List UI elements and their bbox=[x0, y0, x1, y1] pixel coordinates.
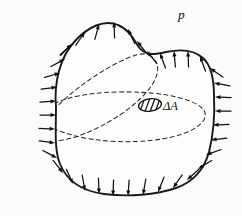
scan-speck bbox=[227, 21, 228, 22]
pressure-arrow bbox=[39, 140, 55, 144]
diagram-canvas: p ΔA bbox=[0, 0, 242, 216]
scan-speck bbox=[196, 206, 197, 207]
scan-speck bbox=[105, 207, 106, 208]
pressure-arrow bbox=[40, 99, 56, 103]
pressure-arrow bbox=[213, 123, 229, 127]
pressure-arrow bbox=[39, 127, 55, 131]
pressure-arrow bbox=[40, 113, 56, 117]
pressure-arrow bbox=[215, 95, 231, 99]
pressure-label: p bbox=[177, 7, 185, 22]
area-element-label: ΔA bbox=[162, 99, 178, 113]
pressure-arrow bbox=[43, 150, 57, 158]
scan-speck bbox=[19, 199, 20, 200]
pressure-arrow bbox=[41, 86, 57, 90]
pressure-diagram-figure: p ΔA bbox=[0, 0, 242, 216]
pressure-arrow bbox=[211, 137, 227, 141]
body-outline bbox=[56, 23, 215, 195]
pressure-arrow bbox=[215, 109, 231, 113]
pressure-arrow bbox=[214, 82, 230, 86]
